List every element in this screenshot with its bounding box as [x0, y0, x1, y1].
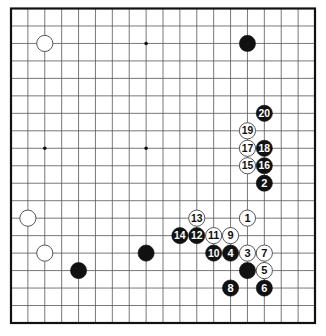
stone-disc [239, 262, 255, 278]
white-stone: 7 [256, 245, 272, 261]
move-number: 15 [242, 160, 254, 171]
black-stone: 4 [222, 245, 238, 261]
white-stone: 19 [239, 123, 255, 139]
star-point [144, 146, 148, 150]
star-point [144, 42, 148, 46]
move-number: 19 [242, 125, 254, 136]
move-number: 3 [244, 247, 250, 259]
white-stone: 3 [239, 245, 255, 261]
move-number: 2 [261, 177, 267, 189]
black-stone: 10 [206, 245, 222, 261]
black-stone [138, 245, 154, 261]
white-stone [37, 35, 53, 51]
star-point [43, 146, 47, 150]
stone-disc [239, 35, 255, 51]
black-stone: 14 [172, 228, 188, 244]
black-stone: 16 [256, 158, 272, 174]
stone-disc [138, 245, 154, 261]
move-number: 9 [227, 229, 233, 241]
white-stone: 15 [239, 158, 255, 174]
black-stone [239, 35, 255, 51]
stone-disc [37, 245, 53, 261]
move-number: 17 [242, 143, 254, 154]
black-stone [239, 262, 255, 278]
move-number: 12 [191, 230, 203, 241]
white-stone: 9 [222, 228, 238, 244]
move-number: 7 [261, 247, 267, 259]
stone-disc [37, 35, 53, 51]
white-stone: 5 [256, 262, 272, 278]
black-stone [70, 262, 86, 278]
stone-disc [70, 262, 86, 278]
move-number: 18 [259, 143, 271, 154]
move-number: 6 [261, 282, 267, 294]
move-number: 20 [259, 108, 271, 119]
white-stone: 17 [239, 140, 255, 156]
black-stone: 6 [256, 280, 272, 296]
move-number: 4 [227, 247, 234, 259]
white-stone: 1 [239, 210, 255, 226]
go-board: 1234567891011121314151617181920 [0, 0, 326, 336]
move-number: 1 [244, 212, 250, 224]
black-stone: 12 [189, 228, 205, 244]
move-number: 16 [259, 160, 271, 171]
white-stone [37, 245, 53, 261]
black-stone: 20 [256, 105, 272, 121]
move-number: 13 [191, 213, 203, 224]
black-stone: 8 [222, 280, 238, 296]
black-stone: 18 [256, 140, 272, 156]
white-stone: 11 [206, 228, 222, 244]
black-stone: 2 [256, 175, 272, 191]
move-number: 11 [208, 230, 220, 241]
white-stone: 13 [189, 210, 205, 226]
move-number: 14 [174, 230, 186, 241]
move-number: 5 [261, 264, 267, 276]
move-number: 10 [208, 248, 220, 259]
stone-disc [20, 210, 36, 226]
move-number: 8 [227, 282, 233, 294]
white-stone [20, 210, 36, 226]
